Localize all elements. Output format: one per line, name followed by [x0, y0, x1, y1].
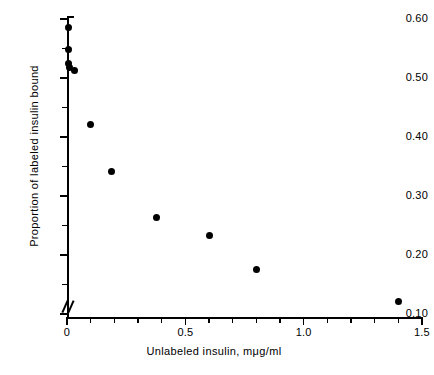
data-point: [87, 121, 94, 128]
x-tick-minor: [137, 317, 139, 323]
data-point: [253, 266, 260, 273]
x-tick-label: 0.5: [165, 326, 205, 338]
x-tick-minor: [208, 317, 210, 323]
x-tick-minor: [232, 317, 234, 323]
y-tick-major: [60, 313, 68, 315]
y-tick-label: 0.30: [392, 189, 428, 201]
y-tick-label: 0.20: [392, 248, 428, 260]
y-tick-major: [60, 18, 68, 20]
y-tick-minor: [62, 225, 68, 227]
x-tick-major: [66, 317, 68, 325]
x-tick-minor: [327, 317, 329, 323]
x-tick-major: [303, 317, 305, 325]
y-tick-label: 0.50: [392, 71, 428, 83]
x-tick-label: 0: [47, 326, 87, 338]
y-axis-top-cap: [67, 16, 74, 18]
data-point: [206, 232, 213, 239]
y-tick-label: 0.60: [392, 12, 428, 24]
data-point: [71, 67, 78, 74]
x-tick-minor: [398, 317, 400, 323]
y-tick-minor: [62, 166, 68, 168]
y-tick-minor: [62, 284, 68, 286]
data-point: [395, 298, 402, 305]
y-tick-label: 0.40: [392, 130, 428, 142]
y-tick-major: [60, 254, 68, 256]
y-tick-major: [60, 77, 68, 79]
data-point: [153, 214, 160, 221]
x-tick-label: 1.0: [284, 326, 324, 338]
x-tick-minor: [374, 317, 376, 323]
x-axis-label: Unlabeled insulin, mμg/ml: [0, 345, 428, 357]
x-axis-spine: [67, 317, 422, 319]
x-tick-minor: [114, 317, 116, 323]
x-tick-major: [185, 317, 187, 325]
x-tick-label: 1.5: [402, 326, 434, 338]
data-point: [65, 24, 72, 31]
x-tick-minor: [256, 317, 258, 323]
x-tick-minor: [350, 317, 352, 323]
y-tick-minor: [62, 107, 68, 109]
x-tick-minor: [90, 317, 92, 323]
y-axis-label: Proportion of labeled insulin bound: [28, 36, 40, 276]
y-tick-major: [60, 136, 68, 138]
x-tick-major: [421, 317, 423, 325]
data-point: [65, 46, 72, 53]
y-tick-major: [60, 195, 68, 197]
x-tick-minor: [279, 317, 281, 323]
x-tick-minor: [161, 317, 163, 323]
data-point: [108, 168, 115, 175]
